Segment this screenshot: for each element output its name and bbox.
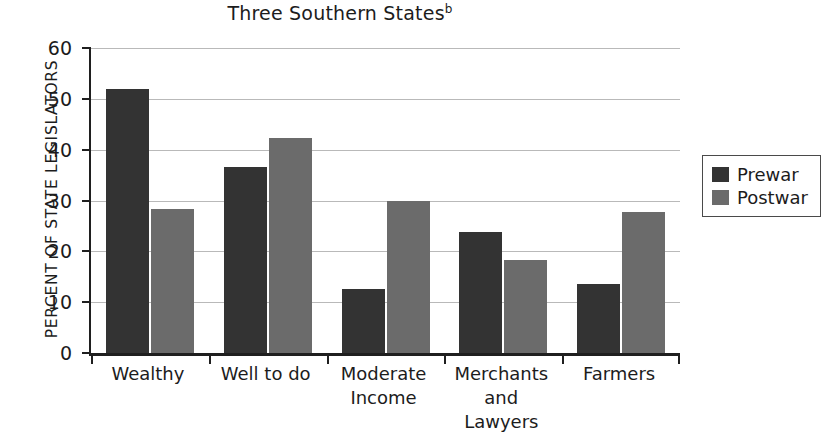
x-axis-label-line: Well to do — [207, 362, 325, 386]
y-axis-tick-label: 30 — [26, 190, 72, 212]
y-axis-tick-label: 60 — [26, 37, 72, 59]
y-axis-tick-label: 0 — [26, 342, 72, 364]
x-axis-category-label-well-to-do: Well to do — [207, 362, 325, 386]
y-axis-tick-label: 50 — [26, 88, 72, 110]
bar-postwar-well-to-do — [269, 138, 312, 353]
x-axis-category-label-merchants-and-lawyers: MerchantsandLawyers — [442, 362, 560, 434]
y-axis-tick — [82, 352, 91, 354]
page-title: Three Southern Statesb — [0, 2, 680, 24]
bar-prewar-merchants-and-lawyers — [459, 232, 502, 353]
x-axis-label-line: and — [442, 386, 560, 410]
y-axis-tick — [82, 301, 91, 303]
y-axis-tick-label: 40 — [26, 139, 72, 161]
bar-prewar-well-to-do — [224, 167, 267, 353]
y-axis-tick-labels: 0102030405060 — [26, 48, 72, 353]
chart-legend: PrewarPostwar — [702, 155, 821, 217]
y-axis-tick — [82, 200, 91, 202]
x-axis-category-label-moderate-income: ModerateIncome — [325, 362, 443, 410]
legend-item-label: Postwar — [737, 187, 808, 208]
legend-item-postwar[interactable]: Postwar — [712, 186, 808, 209]
legend-item-label: Prewar — [737, 164, 799, 185]
y-axis-tick — [82, 250, 91, 252]
bar-postwar-moderate-income — [387, 201, 430, 354]
bar-prewar-farmers — [577, 284, 620, 353]
x-axis-label-line: Moderate — [325, 362, 443, 386]
chart-title-text: Three Southern States — [227, 2, 444, 24]
y-axis-tick — [82, 98, 91, 100]
legend-swatch-icon — [712, 190, 729, 205]
bar-postwar-farmers — [622, 212, 665, 353]
legend-item-prewar[interactable]: Prewar — [712, 163, 808, 186]
bar-postwar-wealthy — [151, 209, 194, 353]
chart-title-superscript: b — [445, 2, 453, 16]
gridline — [91, 99, 680, 100]
gridline — [91, 48, 680, 49]
x-axis-label-line: Merchants — [442, 362, 560, 386]
x-axis-category-label-farmers: Farmers — [560, 362, 678, 386]
bar-postwar-merchants-and-lawyers — [504, 260, 547, 353]
y-axis-tick-label: 10 — [26, 291, 72, 313]
x-axis-tick — [678, 353, 680, 364]
x-axis-category-labels: WealthyWell to doModerateIncomeMerchants… — [89, 362, 678, 437]
bar-prewar-moderate-income — [342, 289, 385, 353]
x-axis-label-line: Income — [325, 386, 443, 410]
x-axis-label-line: Wealthy — [89, 362, 207, 386]
gridline — [91, 201, 680, 202]
x-axis-label-line: Farmers — [560, 362, 678, 386]
x-axis-category-label-wealthy: Wealthy — [89, 362, 207, 386]
y-axis-tick — [82, 47, 91, 49]
y-axis-tick-label: 20 — [26, 240, 72, 262]
legend-swatch-icon — [712, 167, 729, 182]
plot-area — [89, 48, 680, 356]
x-axis-label-line: Lawyers — [442, 410, 560, 434]
y-axis-tick — [82, 149, 91, 151]
bar-prewar-wealthy — [106, 89, 149, 353]
gridline — [91, 150, 680, 151]
